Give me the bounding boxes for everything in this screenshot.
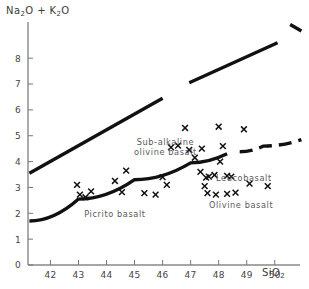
x-tick-label: 42 xyxy=(44,270,56,280)
boundary-upper-alkaline-boundary-upper xyxy=(189,43,277,83)
boundary-curves-group xyxy=(29,25,301,221)
y-tick-label: 7 xyxy=(15,79,21,89)
data-point-marker xyxy=(241,126,247,132)
data-point-marker xyxy=(77,192,83,198)
data-point-marker xyxy=(213,192,219,198)
y-tick-label: 1 xyxy=(15,235,21,245)
data-point-marker xyxy=(265,183,271,189)
data-point-marker xyxy=(199,146,205,152)
y-tick-label: 5 xyxy=(15,131,21,141)
y-axis-ticks: 012345678 xyxy=(15,54,33,271)
x-tick-label: 48 xyxy=(213,270,225,280)
x-tick-label: 45 xyxy=(129,270,141,280)
tas-classification-chart: 012345678 424344454647484950 Na2O + K2O … xyxy=(0,0,309,289)
y-tick-label: 0 xyxy=(15,260,21,270)
data-point-marker xyxy=(123,168,129,174)
field-label-picrito-basalt: Picrito basalt xyxy=(84,209,146,219)
data-point-marker xyxy=(88,188,94,194)
boundary-upper-alkaline-boundary-lower xyxy=(29,98,162,173)
y-tick-label: 3 xyxy=(15,183,21,193)
x-tick-label: 49 xyxy=(241,270,253,280)
boundary-lower-alkaline-boundary-dashed xyxy=(240,140,302,152)
x-tick-label: 44 xyxy=(100,270,112,280)
data-point-marker xyxy=(153,192,159,198)
x-tick-label: 43 xyxy=(72,270,84,280)
field-label-sub-alkaline-olivine-basalt: Sub-alkalineolivine basalt xyxy=(134,137,197,157)
data-point-marker xyxy=(220,143,226,149)
data-point-marker xyxy=(217,159,223,165)
data-point-marker xyxy=(164,182,170,188)
data-point-marker xyxy=(216,124,222,130)
field-label-leucobasalt: Leucobasalt xyxy=(216,173,272,183)
data-point-marker xyxy=(202,183,208,189)
y-tick-label: 8 xyxy=(15,54,21,64)
data-point-marker xyxy=(141,190,147,196)
data-point-marker xyxy=(74,182,80,188)
field-label-olivine-basalt: Olivine basalt xyxy=(209,200,274,210)
data-point-marker xyxy=(224,191,230,197)
data-point-marker xyxy=(119,189,125,195)
data-point-marker xyxy=(198,169,204,175)
data-point-marker xyxy=(182,125,188,131)
data-point-marker xyxy=(205,190,211,196)
x-axis-ticks: 424344454647484950 xyxy=(44,260,280,280)
data-points-group xyxy=(74,124,270,200)
x-tick-label: 46 xyxy=(157,270,169,280)
y-tick-label: 4 xyxy=(15,157,21,167)
data-point-marker xyxy=(233,190,239,196)
x-tick-label: 47 xyxy=(185,270,197,280)
data-point-marker xyxy=(112,178,118,184)
y-tick-label: 6 xyxy=(15,105,21,115)
boundary-upper-alkaline-boundary-top xyxy=(290,25,301,31)
chart-page: 012345678 424344454647484950 Na2O + K2O … xyxy=(0,0,309,289)
y-tick-label: 2 xyxy=(15,209,21,219)
y-axis-title: Na2O + K2O xyxy=(6,5,70,18)
